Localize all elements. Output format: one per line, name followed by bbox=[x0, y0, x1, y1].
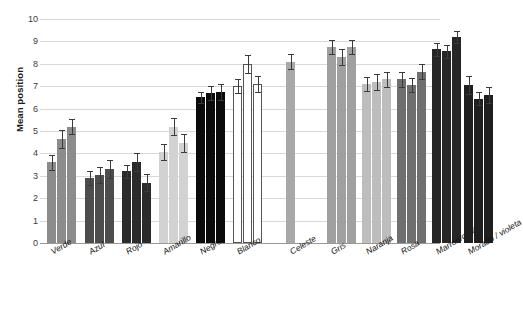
bar bbox=[327, 47, 336, 243]
error-cap-lower bbox=[208, 100, 214, 101]
error-cap-lower bbox=[134, 171, 140, 172]
error-cap-lower bbox=[107, 178, 113, 179]
error-cap-upper bbox=[288, 54, 294, 55]
y-tick-10: 10 bbox=[16, 15, 38, 24]
error-bar bbox=[147, 174, 148, 192]
error-bar bbox=[367, 77, 368, 90]
y-tick-3: 3 bbox=[16, 171, 38, 180]
error-cap-lower bbox=[87, 185, 93, 186]
bar bbox=[67, 127, 76, 243]
error-cap-lower bbox=[444, 58, 450, 59]
error-cap-upper bbox=[339, 49, 345, 50]
error-cap-lower bbox=[454, 43, 460, 44]
plot-area: VerdeAzulRojoAmarilloNegroBlancoCelesteG… bbox=[40, 0, 440, 314]
error-cap-upper bbox=[349, 40, 355, 41]
error-cap-upper bbox=[409, 78, 415, 79]
y-tick-5: 5 bbox=[16, 127, 38, 136]
bar bbox=[286, 62, 295, 243]
error-cap-lower bbox=[218, 100, 224, 101]
error-cap-upper bbox=[466, 76, 472, 77]
error-bar bbox=[100, 167, 101, 183]
y-tick-2: 2 bbox=[16, 194, 38, 203]
bar bbox=[442, 51, 451, 243]
error-cap-upper bbox=[374, 74, 380, 75]
y-axis-ticks: 012345678910 bbox=[12, 0, 38, 314]
error-bar bbox=[387, 72, 388, 88]
error-cap-lower bbox=[288, 69, 294, 70]
error-cap-upper bbox=[107, 160, 113, 161]
bar bbox=[484, 95, 493, 243]
y-tick-0: 0 bbox=[16, 239, 38, 248]
error-bar bbox=[137, 153, 138, 171]
error-cap-lower bbox=[384, 87, 390, 88]
error-cap-upper bbox=[124, 165, 130, 166]
error-cap-lower bbox=[245, 73, 251, 74]
y-tick-8: 8 bbox=[16, 59, 38, 68]
bar bbox=[464, 85, 473, 243]
error-cap-lower bbox=[364, 91, 370, 92]
error-cap-upper bbox=[255, 76, 261, 77]
error-bar bbox=[238, 79, 239, 92]
error-cap-upper bbox=[171, 118, 177, 119]
error-bar bbox=[352, 40, 353, 53]
error-bar bbox=[422, 64, 423, 80]
error-bar bbox=[127, 165, 128, 178]
error-cap-upper bbox=[134, 153, 140, 154]
error-cap-upper bbox=[144, 174, 150, 175]
error-bar bbox=[211, 86, 212, 99]
error-cap-upper bbox=[419, 64, 425, 65]
bar bbox=[452, 37, 461, 243]
error-cap-lower bbox=[349, 54, 355, 55]
bar bbox=[85, 178, 94, 243]
error-cap-upper bbox=[49, 155, 55, 156]
bar bbox=[347, 47, 356, 243]
error-cap-upper bbox=[245, 55, 251, 56]
error-cap-lower bbox=[161, 160, 167, 161]
error-cap-lower bbox=[374, 90, 380, 91]
error-cap-lower bbox=[171, 135, 177, 136]
error-bar bbox=[90, 171, 91, 184]
error-cap-upper bbox=[69, 119, 75, 120]
error-bar bbox=[221, 84, 222, 100]
error-bar bbox=[489, 87, 490, 103]
bar bbox=[206, 93, 215, 243]
error-bar bbox=[62, 130, 63, 148]
error-bar bbox=[402, 72, 403, 88]
bar bbox=[95, 175, 104, 243]
error-bar bbox=[201, 92, 202, 103]
error-cap-lower bbox=[181, 152, 187, 153]
error-cap-upper bbox=[329, 40, 335, 41]
error-cap-upper bbox=[486, 87, 492, 88]
error-bar bbox=[479, 92, 480, 105]
bar bbox=[216, 92, 225, 243]
bar bbox=[47, 162, 56, 243]
error-cap-upper bbox=[235, 79, 241, 80]
error-bar bbox=[164, 144, 165, 160]
error-cap-lower bbox=[97, 183, 103, 184]
error-cap-lower bbox=[255, 92, 261, 93]
bar bbox=[243, 64, 252, 243]
error-cap-lower bbox=[434, 56, 440, 57]
bar bbox=[179, 143, 188, 243]
error-cap-upper bbox=[208, 86, 214, 87]
error-cap-lower bbox=[49, 170, 55, 171]
error-bar bbox=[447, 45, 448, 58]
error-bar bbox=[248, 55, 249, 73]
bar bbox=[417, 72, 426, 243]
error-cap-lower bbox=[124, 178, 130, 179]
error-bar bbox=[291, 54, 292, 70]
y-tick-6: 6 bbox=[16, 104, 38, 113]
bar bbox=[196, 97, 205, 243]
bar bbox=[253, 84, 262, 243]
bar bbox=[169, 127, 178, 243]
bar bbox=[337, 57, 346, 243]
error-cap-upper bbox=[97, 167, 103, 168]
error-cap-upper bbox=[161, 144, 167, 145]
error-cap-upper bbox=[364, 77, 370, 78]
error-bar bbox=[469, 76, 470, 94]
error-bar bbox=[437, 43, 438, 56]
error-bar bbox=[174, 118, 175, 136]
error-cap-lower bbox=[486, 103, 492, 104]
error-cap-lower bbox=[466, 94, 472, 95]
